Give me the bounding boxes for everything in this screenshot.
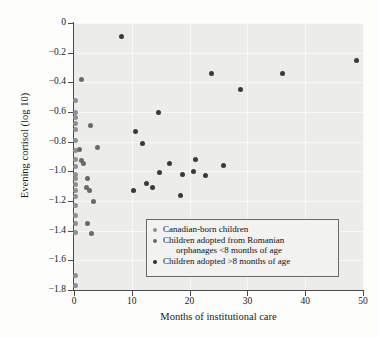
legend-item-adopted-over-8: Children adopted >8 months of age	[153, 256, 333, 266]
data-point	[87, 188, 92, 193]
y-tick-mark	[68, 53, 73, 54]
y-tick-label: −1.2	[26, 196, 66, 205]
data-point	[280, 71, 285, 76]
x-tick-label: 50	[348, 296, 378, 306]
legend-label: Children adopted >8 months of age	[163, 256, 290, 266]
y-tick-mark	[68, 171, 73, 172]
gridline-horizontal	[74, 112, 363, 113]
y-tick-label: 0	[26, 18, 66, 27]
y-tick-mark	[68, 82, 73, 83]
x-tick-label: 0	[59, 296, 89, 306]
data-point	[73, 110, 78, 115]
data-point	[73, 138, 78, 143]
y-tick-label: −0.4	[26, 77, 66, 86]
y-tick-mark	[68, 23, 73, 24]
y-tick-label: −0.6	[26, 107, 66, 116]
legend-label-line1: Children adopted from Romanian	[163, 235, 284, 245]
legend-label-line2: orphanages <8 months of age	[163, 245, 284, 255]
gridline-horizontal	[74, 171, 363, 172]
y-tick-mark	[68, 142, 73, 143]
legend-label: Children adopted from Romanianorphanages…	[163, 235, 284, 255]
y-tick-label: −1.0	[26, 166, 66, 175]
y-tick-label: −0.2	[26, 48, 66, 57]
y-tick-mark	[68, 260, 73, 261]
legend-marker-icon	[153, 228, 157, 232]
data-point	[354, 58, 359, 63]
data-point	[180, 172, 185, 177]
x-tick-label: 20	[175, 296, 205, 306]
data-point	[221, 163, 226, 168]
y-tick-label: −1.8	[26, 285, 66, 294]
data-point	[178, 193, 183, 198]
x-tick-label: 40	[290, 296, 320, 306]
legend-item-adopted-under-8: Children adopted from Romanianorphanages…	[153, 235, 333, 255]
data-point	[191, 169, 196, 174]
data-point	[79, 77, 84, 82]
x-tick-label: 30	[232, 296, 262, 306]
data-point	[133, 129, 138, 134]
y-axis-title: Evening cortisol (log 10)	[19, 36, 30, 256]
data-point	[89, 231, 94, 236]
data-point	[140, 141, 145, 146]
y-tick-label: −1.4	[26, 226, 66, 235]
data-point	[73, 273, 78, 278]
gridline-horizontal	[74, 53, 363, 54]
y-tick-label: −0.8	[26, 137, 66, 146]
gridline-horizontal	[74, 82, 363, 83]
data-point	[77, 147, 82, 152]
gridline-horizontal	[74, 23, 363, 24]
x-tick-label: 10	[117, 296, 147, 306]
legend-label: Canadian-born children	[163, 224, 248, 234]
y-tick-label: −1.6	[26, 255, 66, 264]
gridline-horizontal	[74, 201, 363, 202]
y-tick-mark	[68, 201, 73, 202]
x-axis-line	[73, 290, 364, 291]
data-point	[85, 221, 90, 226]
y-tick-mark	[68, 290, 73, 291]
data-point	[91, 199, 96, 204]
gridline-vertical	[363, 23, 364, 290]
data-point	[73, 221, 78, 226]
chart-legend: Canadian-born children Children adopted …	[146, 219, 339, 277]
legend-marker-icon	[153, 260, 157, 264]
gridline-vertical	[132, 23, 133, 290]
legend-marker-icon	[153, 239, 157, 243]
data-point	[73, 98, 78, 103]
data-point	[209, 71, 214, 76]
data-point	[144, 181, 149, 186]
scatter-plot-figure: 0−0.2−0.4−0.6−0.8−1.0−1.2−1.4−1.6−1.8 01…	[0, 0, 379, 337]
x-axis-title: Months of institutional care	[74, 311, 363, 322]
data-point	[156, 110, 161, 115]
data-point	[150, 185, 155, 190]
gridline-horizontal	[74, 142, 363, 143]
legend-item-canadian-born: Canadian-born children	[153, 224, 333, 234]
data-point	[73, 230, 78, 235]
